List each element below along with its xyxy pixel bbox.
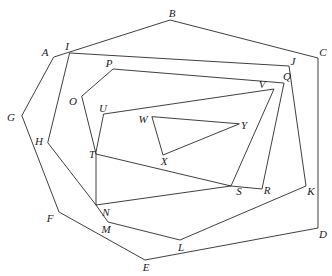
vertex-label-l: L xyxy=(178,242,184,253)
vertex-label-x: X xyxy=(161,156,168,167)
vertex-label-m: M xyxy=(101,224,110,235)
innermost-triangle-WXY xyxy=(152,117,239,155)
polygon-canvas xyxy=(0,0,332,276)
shape-layer xyxy=(22,20,318,260)
vertex-label-i: I xyxy=(65,41,69,52)
vertex-label-v: V xyxy=(259,79,266,90)
vertex-label-u: U xyxy=(99,103,107,114)
vertex-label-f: F xyxy=(47,213,54,224)
vertex-label-q: Q xyxy=(283,71,291,82)
geometry-figure: ABCDEFGHIJKLMNOPQRSTUVWXY xyxy=(0,0,332,276)
third-polygon-OPQRSTN xyxy=(82,69,284,205)
vertex-label-o: O xyxy=(69,96,77,107)
vertex-label-r: R xyxy=(264,185,271,196)
second-polygon-IJKLMNH xyxy=(48,53,306,240)
vertex-label-w: W xyxy=(138,114,147,125)
vertex-label-h: H xyxy=(35,136,43,147)
outer-polygon-ABCDEFG xyxy=(22,20,318,260)
vertex-label-y: Y xyxy=(241,120,247,131)
vertex-label-n: N xyxy=(102,207,109,218)
vertex-label-t: T xyxy=(89,149,95,160)
vertex-label-s: S xyxy=(236,186,242,197)
vertex-label-b: B xyxy=(169,8,176,19)
vertex-label-c: C xyxy=(319,47,326,58)
vertex-label-d: D xyxy=(319,229,327,240)
vertex-label-j: J xyxy=(291,56,296,67)
vertex-label-g: G xyxy=(7,112,15,123)
vertex-label-p: P xyxy=(106,58,113,69)
inner-polygon-UVYST xyxy=(96,89,274,186)
vertex-label-k: K xyxy=(307,186,314,197)
vertex-label-e: E xyxy=(143,262,150,273)
vertex-label-a: A xyxy=(42,47,49,58)
